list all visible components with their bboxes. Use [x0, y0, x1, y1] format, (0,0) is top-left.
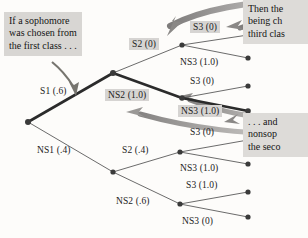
label-leaf3: S3 (0): [190, 76, 214, 86]
callout-top-right: Then the being ch third clas: [243, 0, 308, 44]
label-s1: S1 (.6): [40, 86, 67, 96]
node-s1s2: [179, 42, 184, 47]
label-ns1: NS1 (.4): [37, 145, 71, 155]
node-root: [25, 119, 31, 125]
figure-canvas: S1 (.6) NS1 (.4) S2 (0) NS2 (1.0) S2 (.4…: [0, 0, 308, 238]
label-leaf7: S3 (1.0): [186, 180, 217, 190]
node-leaf7: [245, 189, 250, 194]
node-leaf6: [245, 161, 250, 166]
node-ns1s2: [177, 149, 182, 154]
label-leaf6: NS3 (1.0): [180, 163, 218, 173]
label-ns2-bot: NS2 (.6): [116, 196, 150, 206]
edge-ns1ns2-leaf7: [180, 192, 248, 204]
node-leaf3: [245, 83, 250, 88]
label-leaf2: NS3 (1.0): [180, 57, 218, 67]
node-ns1ns2: [177, 201, 182, 206]
edge-s1ns2-leaf3: [182, 86, 248, 98]
label-leaf5: S3 (0): [190, 127, 214, 137]
node-s1: [110, 70, 116, 76]
label-ns2-top: NS2 (1.0): [105, 89, 149, 101]
node-s1ns2: [179, 95, 185, 101]
label-leaf8: NS3 (0): [182, 216, 213, 226]
label-s2-bot: S2 (.4): [122, 145, 149, 155]
label-leaf4: NS3 (1.0): [178, 105, 222, 117]
node-leaf8: [245, 214, 250, 219]
callout-left: If a sophomore was chosen from the first…: [4, 12, 82, 56]
edge-s1s2-leaf1: [182, 35, 248, 45]
label-leaf1: S3 (0): [190, 21, 220, 33]
edge-ns1s2-leaf5: [180, 140, 248, 152]
edge-ns1-s2: [113, 152, 180, 172]
node-leaf2: [245, 55, 250, 60]
label-s2-top: S2 (0): [129, 38, 159, 50]
node-ns1: [110, 169, 115, 174]
callout-bottom-right: . . . and nonsop the seco: [243, 113, 308, 157]
